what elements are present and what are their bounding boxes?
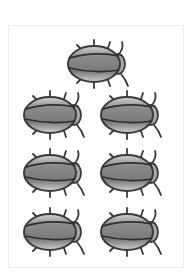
beetle-icon	[97, 89, 169, 141]
beetle-icon	[20, 206, 92, 258]
beetle-icon	[97, 147, 169, 199]
beetle-icon	[64, 38, 136, 90]
beetle-icon	[20, 147, 92, 199]
beetle-icon	[97, 206, 169, 258]
beetle-icon	[20, 89, 92, 141]
